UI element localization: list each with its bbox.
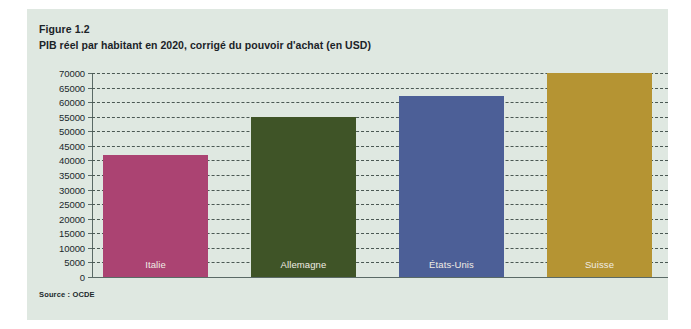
y-axis-tick bbox=[88, 117, 92, 118]
y-axis-tick-label: 35000 bbox=[59, 170, 85, 181]
y-axis-tick-label: 70000 bbox=[59, 68, 85, 79]
y-axis-tick bbox=[88, 277, 92, 278]
y-axis-tick bbox=[88, 160, 92, 161]
figure-title: PIB réel par habitant en 2020, corrigé d… bbox=[39, 38, 649, 52]
bar-label: Allemagne bbox=[251, 259, 356, 270]
y-axis-tick bbox=[88, 131, 92, 132]
y-axis-tick-label: 20000 bbox=[59, 213, 85, 224]
y-axis-tick bbox=[88, 219, 92, 220]
y-axis-tick-label: 0 bbox=[80, 272, 85, 283]
y-axis-tick-label: 50000 bbox=[59, 126, 85, 137]
y-axis-tick bbox=[88, 102, 92, 103]
chart-plot-area: 0500010000150002000025000300003500040000… bbox=[92, 73, 668, 277]
figure-card: Figure 1.2 PIB réel par habitant en 2020… bbox=[27, 9, 668, 320]
y-axis-tick bbox=[88, 175, 92, 176]
bar-suisse[interactable]: Suisse bbox=[547, 73, 652, 277]
bar-allemagne[interactable]: Allemagne bbox=[251, 117, 356, 277]
y-axis-tick bbox=[88, 248, 92, 249]
y-axis-tick-label: 55000 bbox=[59, 111, 85, 122]
y-axis-tick-label: 10000 bbox=[59, 242, 85, 253]
bar-italie[interactable]: Italie bbox=[103, 155, 208, 277]
y-axis-tick-label: 30000 bbox=[59, 184, 85, 195]
y-axis-tick bbox=[88, 233, 92, 234]
y-axis-tick-label: 45000 bbox=[59, 140, 85, 151]
bar-label: Suisse bbox=[547, 259, 652, 270]
y-axis-tick bbox=[88, 262, 92, 263]
bar-label: Italie bbox=[103, 259, 208, 270]
figure-heading: Figure 1.2 PIB réel par habitant en 2020… bbox=[39, 23, 649, 52]
y-axis-tick-label: 5000 bbox=[64, 257, 85, 268]
y-axis-tick bbox=[88, 190, 92, 191]
y-axis-tick-label: 65000 bbox=[59, 82, 85, 93]
y-axis-tick-label: 25000 bbox=[59, 199, 85, 210]
y-axis-tick-label: 15000 bbox=[59, 228, 85, 239]
y-axis-tick bbox=[88, 88, 92, 89]
source-note: Source : OCDE bbox=[39, 290, 95, 299]
bar-tats-unis[interactable]: États-Unis bbox=[399, 96, 504, 277]
y-axis-tick-label: 60000 bbox=[59, 97, 85, 108]
figure-number: Figure 1.2 bbox=[39, 23, 649, 36]
y-axis-tick bbox=[88, 204, 92, 205]
bar-label: États-Unis bbox=[399, 259, 504, 270]
y-axis-tick bbox=[88, 146, 92, 147]
y-axis-tick bbox=[88, 73, 92, 74]
x-axis-line bbox=[92, 277, 668, 278]
y-axis-tick-label: 40000 bbox=[59, 155, 85, 166]
